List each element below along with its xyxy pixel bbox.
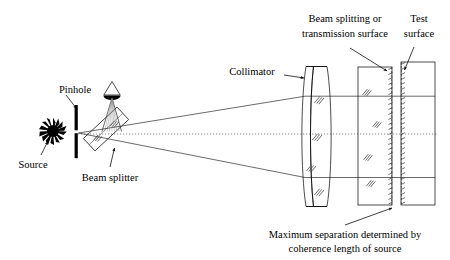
label-max-separation-line2: coherence length of source <box>289 243 402 254</box>
collimator-leader <box>284 75 304 78</box>
label-test-surface-line1: Test <box>410 13 427 24</box>
label-beam-splitting-line2: transmission surface <box>302 28 388 39</box>
beam-splitting-surface <box>388 67 392 205</box>
beam-splitting-plate <box>358 67 392 205</box>
source-leader <box>41 142 48 156</box>
beam-splitter-leader <box>110 148 115 167</box>
collimator-doublet-lens <box>302 67 331 207</box>
label-beam-splitting-line1: Beam splitting or <box>309 13 382 24</box>
test-surface-plate <box>401 62 435 205</box>
label-pinhole: Pinhole <box>59 84 91 95</box>
label-test-surface-line2: surface <box>404 28 435 39</box>
figure-canvas: Pinhole Source Beam splitter Collimator … <box>0 0 450 260</box>
label-max-separation-line1: Maximum separation determined by <box>269 229 422 240</box>
label-beam-splitter: Beam splitter <box>82 172 139 183</box>
label-collimator: Collimator <box>229 66 275 77</box>
max-separation-leader <box>345 208 392 225</box>
observer-eye <box>102 82 122 132</box>
label-source: Source <box>18 159 47 170</box>
pinhole-aperture <box>75 105 78 158</box>
test-surface <box>401 62 405 205</box>
beam-splitting-surface-leader <box>350 48 387 71</box>
test-surface-leader <box>405 47 415 70</box>
pinhole-leader <box>66 95 77 109</box>
source-starburst <box>39 118 67 146</box>
optical-diagram: Pinhole Source Beam splitter Collimator … <box>0 0 450 260</box>
beam-splitter-plate <box>83 107 128 151</box>
ray-bundle <box>79 96 436 177</box>
